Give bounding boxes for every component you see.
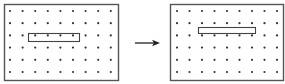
grid-dot [47,10,49,12]
grid-dot [34,47,36,49]
selection-bar-before [29,34,80,42]
grid-dot [276,71,278,73]
grid-dot [213,10,215,12]
grid-dot [22,10,24,12]
grid-dot [188,34,190,36]
grid-dot [213,47,215,49]
grid-dot [276,59,278,61]
grid-dot [47,34,49,36]
grid-dot [110,47,112,49]
grid-dot [176,47,178,49]
grid-dot [213,59,215,61]
grid-dot [85,10,87,12]
grid-dot [201,22,203,24]
grid-dot [72,34,74,36]
grid-dot [22,22,24,24]
grid-dot [85,47,87,49]
grid-dot [201,47,203,49]
grid-dot [251,47,253,49]
grid-dot [34,59,36,61]
grid-dot [47,71,49,73]
grid-dot [226,10,228,12]
grid-dot [176,34,178,36]
grid-dot [176,10,178,12]
grid-dot [9,10,11,12]
grid-dot [9,34,11,36]
grid-dot [59,71,61,73]
grid-dot [201,10,203,12]
grid-dot [22,59,24,61]
grid-dot [110,34,112,36]
grid-dot [85,59,87,61]
grid-dot [276,34,278,36]
grid-dot [72,10,74,12]
grid-dot [59,59,61,61]
grid-dot [213,34,215,36]
grid-dot [22,47,24,49]
grid-dot [251,10,253,12]
grid-dot [97,59,99,61]
grid-dot [85,71,87,73]
grid-dot [47,47,49,49]
grid-dot [97,34,99,36]
dot-grid-diagram [0,0,285,84]
grid-dot [251,34,253,36]
grid-dot [110,71,112,73]
grid-dot [201,59,203,61]
grid-dot [22,71,24,73]
grid-dot [251,59,253,61]
grid-dot [226,34,228,36]
grid-dot [59,34,61,36]
grid-dot [97,47,99,49]
grid-dot [9,71,11,73]
grid-dot [72,22,74,24]
grid-dot [213,22,215,24]
grid-dot [213,71,215,73]
grid-dot [276,22,278,24]
grid-dot [59,10,61,12]
grid-dot [276,47,278,49]
grid-dot [238,47,240,49]
grid-dot [238,59,240,61]
grid-dot [34,34,36,36]
grid-dot [72,59,74,61]
grid-dot [72,71,74,73]
grid-dot [263,47,265,49]
grid-dot [188,71,190,73]
diagram-canvas [0,0,285,84]
grid-dot [201,34,203,36]
grid-dot [188,22,190,24]
grid-dot [9,22,11,24]
grid-dot [251,71,253,73]
grid-dot [85,22,87,24]
grid-dot [97,71,99,73]
grid-dot [263,59,265,61]
grid-dot [110,59,112,61]
grid-dot [188,10,190,12]
grid-dot [251,22,253,24]
grid-dot [59,47,61,49]
grid-dot [59,22,61,24]
grid-frame-after [171,5,284,81]
grid-dot [238,71,240,73]
grid-dot [34,22,36,24]
grid-dot [263,34,265,36]
grid-dot [9,47,11,49]
grid-dot [176,59,178,61]
grid-dot [22,34,24,36]
grid-dot [263,10,265,12]
grid-dot [263,71,265,73]
grid-dot [263,22,265,24]
grid-dot [226,22,228,24]
grid-dot [47,22,49,24]
grid-dot [201,71,203,73]
selection-bar-after [199,28,256,34]
grid-frame-before [5,5,119,81]
grid-dot [34,71,36,73]
grid-dot [276,10,278,12]
grid-dot [188,47,190,49]
grid-dot [238,34,240,36]
grid-dot [110,10,112,12]
grid-dot [97,10,99,12]
grid-dot [34,10,36,12]
